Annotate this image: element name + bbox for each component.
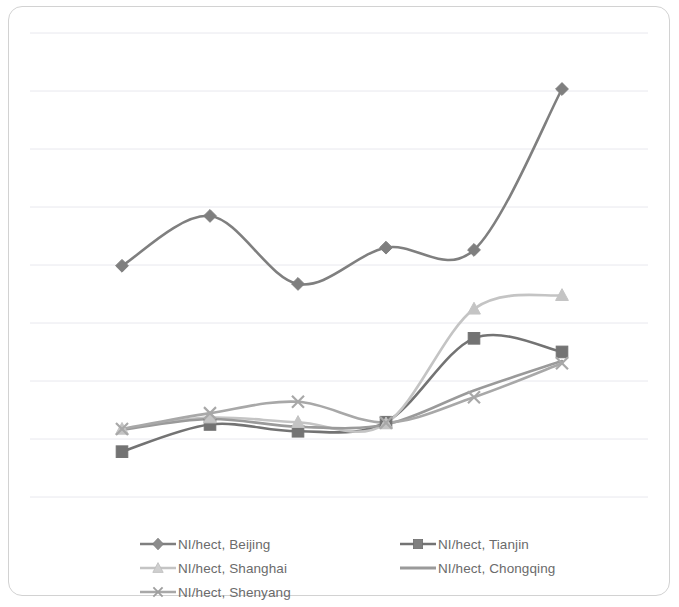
line-chart-svg xyxy=(0,0,679,530)
series-line xyxy=(122,361,562,430)
data-point-marker xyxy=(468,391,480,403)
data-point-marker xyxy=(116,446,128,458)
series-line xyxy=(122,89,562,284)
series-line xyxy=(122,335,562,452)
legend-item-shenyang[interactable]: NI/hect, Shenyang xyxy=(138,580,388,604)
legend-label-chongqing: NI/hect, Chongqing xyxy=(438,561,555,576)
legend-key-line-icon xyxy=(398,558,438,578)
legend-item-chongqing[interactable]: NI/hect, Chongqing xyxy=(398,556,628,580)
legend-column-right: NI/hect, Tianjin NI/hect, Chongqing xyxy=(398,532,628,580)
legend-key-cross-icon xyxy=(138,582,178,602)
legend-label-shenyang: NI/hect, Shenyang xyxy=(178,585,291,600)
legend-label-tianjin: NI/hect, Tianjin xyxy=(438,537,529,552)
data-point-marker xyxy=(468,302,481,314)
legend-item-shanghai[interactable]: NI/hect, Shanghai xyxy=(138,556,388,580)
series-line xyxy=(122,295,562,432)
chart-legend: NI/hect, Beijing NI/hect, Shanghai NI/he… xyxy=(130,532,630,604)
legend-key-diamond-icon xyxy=(138,534,178,554)
series-lines-group xyxy=(122,89,562,452)
legend-label-beijing: NI/hect, Beijing xyxy=(178,537,270,552)
legend-key-triangle-icon xyxy=(138,558,178,578)
data-point-marker xyxy=(556,346,568,358)
legend-column-left: NI/hect, Beijing NI/hect, Shanghai NI/he… xyxy=(138,532,388,604)
data-point-marker xyxy=(556,83,569,96)
legend-key-square-icon xyxy=(398,534,438,554)
data-point-marker xyxy=(292,278,305,291)
data-point-marker xyxy=(468,333,480,345)
data-point-marker xyxy=(380,241,393,254)
data-point-marker xyxy=(204,210,217,223)
legend-label-shanghai: NI/hect, Shanghai xyxy=(178,561,287,576)
legend-item-beijing[interactable]: NI/hect, Beijing xyxy=(138,532,388,556)
chart-plot-area xyxy=(0,0,679,530)
legend-item-tianjin[interactable]: NI/hect, Tianjin xyxy=(398,532,628,556)
